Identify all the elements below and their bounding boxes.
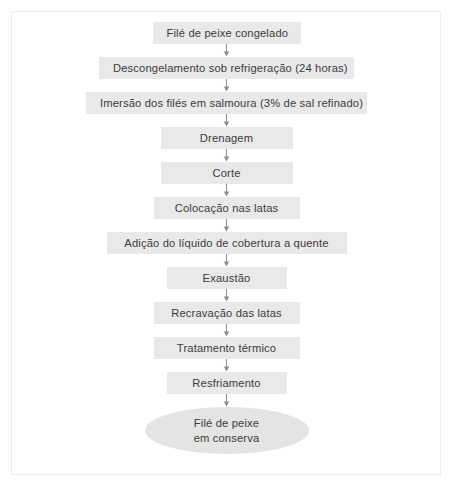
arrow-connector xyxy=(222,289,231,302)
arrow-connector xyxy=(222,184,231,197)
arrow-connector xyxy=(222,79,231,92)
process-step-8: Exaustão xyxy=(167,267,287,289)
arrow-connector xyxy=(222,254,231,267)
arrow-connector xyxy=(222,114,231,127)
terminator-final-product: Filé de peixe em conserva xyxy=(145,407,309,454)
process-step-1: Filé de peixe congelado xyxy=(153,22,301,44)
process-step-4: Drenagem xyxy=(161,127,293,149)
arrow-connector xyxy=(222,44,231,57)
process-step-5: Corte xyxy=(161,162,293,184)
arrow-connector xyxy=(222,324,231,337)
process-step-11: Resfriamento xyxy=(167,372,287,394)
process-step-7: Adição do líquido de cobertura a quente xyxy=(107,232,347,254)
arrow-connector xyxy=(222,149,231,162)
arrow-connector xyxy=(222,359,231,372)
process-step-2: Descongelamento sob refrigeração (24 hor… xyxy=(99,57,354,79)
terminator-line-2: em conserva xyxy=(194,431,260,446)
process-step-10: Tratamento térmico xyxy=(154,337,300,359)
terminator-line-1: Filé de peixe xyxy=(194,416,259,431)
process-step-6: Colocação nas latas xyxy=(154,197,300,219)
process-step-3: Imersão dos filés em salmoura (3% de sal… xyxy=(86,92,367,114)
arrow-connector xyxy=(222,394,231,407)
process-step-9: Recravação das latas xyxy=(154,302,300,324)
arrow-connector xyxy=(222,219,231,232)
flowchart-diagram: Filé de peixe congelado Descongelamento … xyxy=(0,0,453,487)
